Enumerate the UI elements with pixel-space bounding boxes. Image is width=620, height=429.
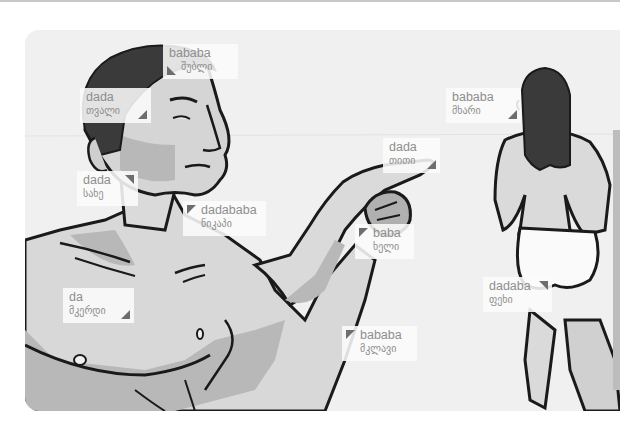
label-shoulder: bababa მხარი xyxy=(446,88,521,123)
label-finger: dada თითი xyxy=(383,138,440,173)
label-shoulder-en: bababa xyxy=(452,90,516,104)
marker-triangle-icon xyxy=(539,281,548,290)
marker-triangle-icon xyxy=(346,330,355,339)
marker-triangle-icon xyxy=(427,160,436,169)
label-neck-ka: ნიკაპი xyxy=(201,217,261,230)
label-arm-en: bababa xyxy=(360,328,412,342)
marker-triangle-icon xyxy=(167,66,176,75)
label-finger-en: dada xyxy=(389,140,435,154)
marker-triangle-icon xyxy=(508,110,517,119)
label-neck: dadababa ნიკაპი xyxy=(183,201,266,236)
marker-triangle-icon xyxy=(121,310,130,319)
label-chest-ka: მკერდი xyxy=(69,304,129,317)
label-hand-ka: ხელი xyxy=(373,240,409,253)
label-arm-ka: მკლავი xyxy=(360,342,412,355)
label-eye-en: dada xyxy=(86,90,146,104)
label-leg: dadaba ფეხი xyxy=(483,277,552,312)
label-hair-ka: შუბლი xyxy=(169,60,233,73)
marker-triangle-icon xyxy=(138,110,147,119)
marker-triangle-icon xyxy=(187,205,196,214)
label-chest: da მკერდი xyxy=(63,288,134,323)
label-hand-en: baba xyxy=(373,226,409,240)
label-hair: bababa შუბლი xyxy=(163,44,238,79)
label-eye: dada თვალი xyxy=(80,88,151,123)
label-shoulder-ka: მხარი xyxy=(452,104,516,117)
label-neck-en: dadababa xyxy=(201,203,261,217)
label-chest-en: da xyxy=(69,290,129,304)
label-arm: bababa მკლავი xyxy=(342,326,417,361)
marker-triangle-icon xyxy=(359,228,368,237)
label-face: dada სახე xyxy=(77,171,138,206)
marker-triangle-icon xyxy=(125,175,134,184)
label-leg-ka: ფეხი xyxy=(489,293,547,306)
label-face-ka: სახე xyxy=(83,187,133,200)
label-eye-ka: თვალი xyxy=(86,104,146,117)
label-hand: baba ხელი xyxy=(355,224,414,259)
top-border xyxy=(0,0,620,2)
label-hair-en: bababa xyxy=(169,46,233,60)
